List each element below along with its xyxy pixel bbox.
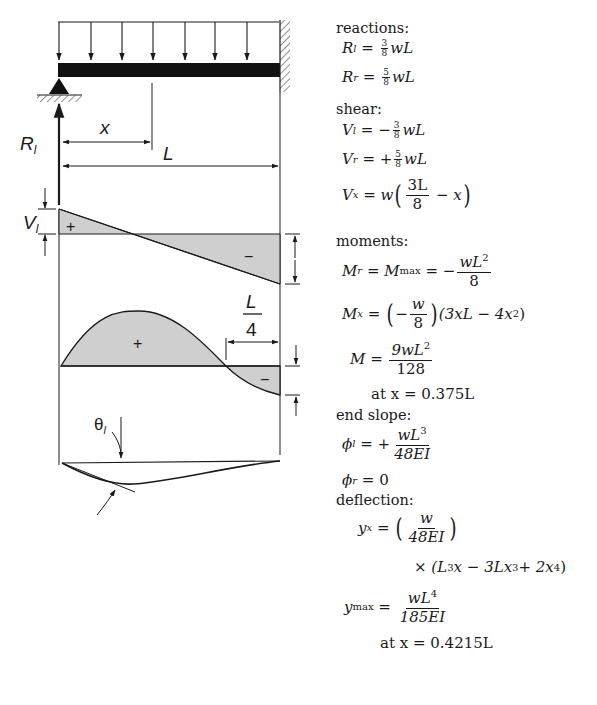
formula-y-x: yx = ( w48EI) <box>358 511 459 546</box>
shear-heading: shear: <box>336 102 382 117</box>
formula-y-x-continued: × (L3x − 3Lx3 + 2x4) <box>414 560 566 575</box>
load-arrow-icon <box>59 22 247 60</box>
reaction-left-label: Rl <box>20 133 37 157</box>
formula-phi-left: ϕl = + wL348EI <box>342 426 434 463</box>
quarter-span-num: L <box>246 291 257 312</box>
slope-angle-label: θl <box>94 415 106 436</box>
fixed-support-icon <box>280 20 290 92</box>
svg-text:+: + <box>133 335 142 352</box>
formula-V-right: Vr = + 58wL <box>342 150 427 170</box>
formula-y-max-location: at x = 0.4215L <box>380 636 493 651</box>
formula-M-right: Mr = Mmax = − wL28 <box>342 253 493 290</box>
shear-left-label: Vl <box>23 212 39 236</box>
formula-y-max: ymax = wL4185EI <box>344 589 449 626</box>
svg-text:−: − <box>244 248 253 265</box>
shear-diagram: + − <box>59 209 280 284</box>
formula-R-left: Rl = 38wL <box>342 39 413 59</box>
svg-text:+: + <box>66 218 75 235</box>
span-label: L <box>163 143 174 164</box>
beam <box>58 63 280 77</box>
x-label: x <box>99 117 111 138</box>
formula-R-right: Rr = 58wL <box>342 68 415 88</box>
formula-M-peak: M = 9wL2128 <box>350 341 434 378</box>
end-slope-heading: end slope: <box>336 408 411 423</box>
formula-phi-right: ϕr = 0 <box>342 473 389 488</box>
formula-V-x: Vx = w( 3L8 − x) <box>342 178 472 213</box>
quarter-span-den: 4 <box>246 319 257 340</box>
formula-M-x: Mx = (− w8)(3xL − 4x2) <box>342 297 525 332</box>
formula-M-location: at x = 0.375L <box>371 387 474 402</box>
svg-text:−: − <box>260 371 269 388</box>
pin-support-icon <box>37 78 82 102</box>
formula-V-left: Vl = − 38wL <box>342 121 425 141</box>
distributed-load <box>58 22 279 60</box>
beam-diagram: Rl x L + − Vl Vr + − L 4 Mr <box>0 0 300 705</box>
reactions-heading: reactions: <box>336 21 409 36</box>
moments-heading: moments: <box>336 234 408 249</box>
deflection-heading: deflection: <box>336 493 414 508</box>
